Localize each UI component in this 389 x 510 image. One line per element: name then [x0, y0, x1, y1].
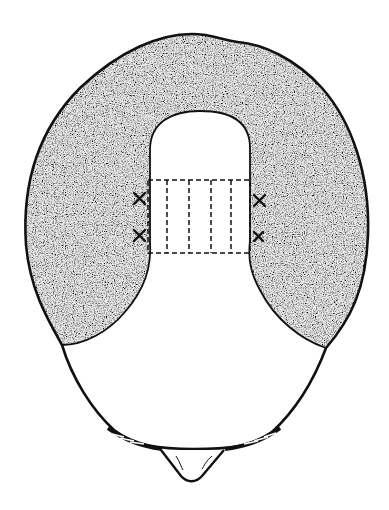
graft-strip-grid — [148, 180, 250, 253]
head-illustration — [0, 0, 389, 510]
eyebrow-right — [225, 428, 280, 449]
hair-fringe-region — [0, 0, 389, 510]
nose-icon — [161, 450, 224, 481]
x-marks — [134, 193, 265, 241]
eyebrow-left — [108, 428, 162, 449]
grid-border — [148, 180, 250, 253]
head-diagram: Top view of head showing hair transplant… — [0, 0, 389, 510]
